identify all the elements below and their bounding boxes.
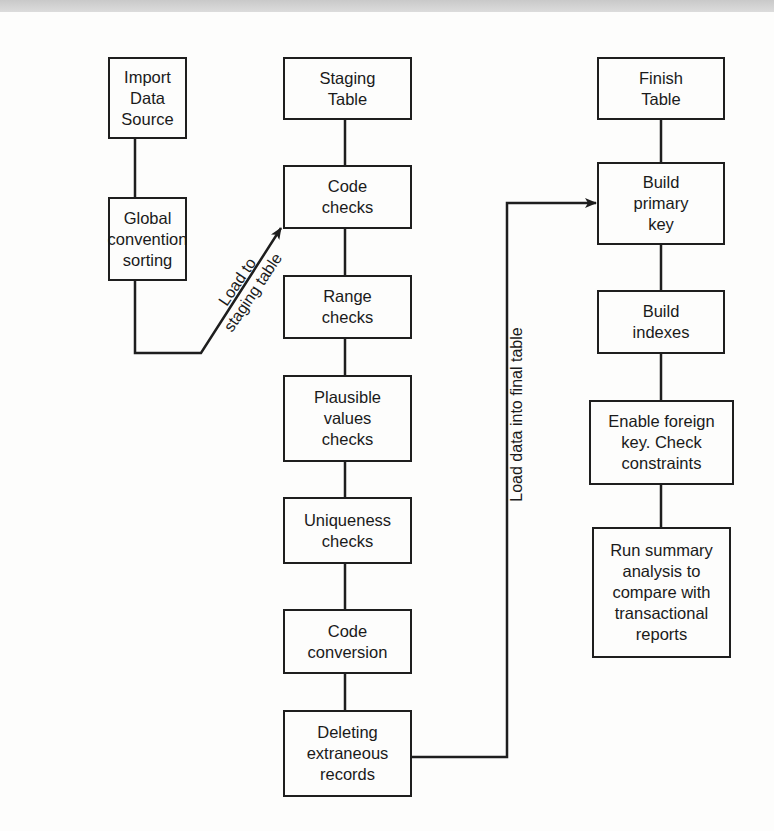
arrow-load-to-final	[412, 203, 596, 757]
node-deleting-extraneous-records: Deleting extraneous records	[283, 710, 412, 797]
node-build-indexes: Build indexes	[597, 290, 725, 354]
node-global-convention-sorting: Global convention sorting	[108, 197, 187, 281]
node-staging-table: Staging Table	[283, 57, 412, 120]
node-plausible-values-checks: Plausible values checks	[283, 375, 412, 462]
node-run-summary-analysis: Run summary analysis to compare with tra…	[592, 527, 731, 658]
node-enable-foreign-key: Enable foreign key. Check constraints	[589, 400, 734, 485]
node-code-checks: Code checks	[283, 165, 412, 229]
node-import-data-source: Import Data Source	[108, 57, 187, 139]
edge-label-load-into-final: Load data into final table	[507, 315, 526, 515]
node-range-checks: Range checks	[283, 275, 412, 339]
node-finish-table: Finish Table	[597, 57, 725, 120]
node-code-conversion: Code conversion	[283, 609, 412, 674]
node-uniqueness-checks: Uniqueness checks	[283, 497, 412, 564]
node-build-primary-key: Build primary key	[597, 162, 725, 245]
